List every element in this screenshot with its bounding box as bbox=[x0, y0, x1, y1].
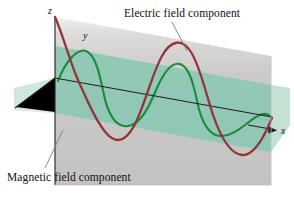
horizontal-plane-xy-far bbox=[271, 85, 290, 152]
y-axis-label: y bbox=[83, 31, 87, 41]
em-wave-figure: Electric field component Magnetic field … bbox=[0, 0, 294, 198]
em-wave-illustration bbox=[0, 0, 294, 198]
z-axis-label: z bbox=[48, 6, 52, 16]
electric-field-label: Electric field component bbox=[124, 8, 240, 20]
x-axis-label: x bbox=[281, 126, 285, 136]
magnetic-field-label: Magnetic field component bbox=[7, 172, 131, 184]
